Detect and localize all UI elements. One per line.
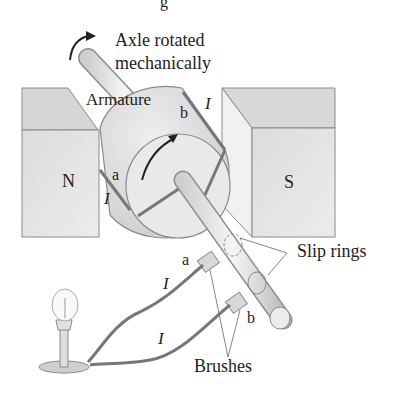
brush-terminal-a: a (182, 252, 189, 268)
coil-terminal-b: b (180, 105, 188, 121)
light-bulb (39, 289, 89, 373)
brush-b (225, 292, 247, 313)
current-label-wire-b: I (158, 330, 164, 347)
slip-rings-label: Slip rings (297, 242, 367, 260)
armature-label: Armature (86, 91, 151, 108)
brushes-label: Brushes (194, 357, 252, 375)
north-pole-label: N (62, 172, 75, 190)
title-fragment: g (160, 0, 168, 10)
wires (88, 265, 230, 365)
brush-terminal-b: b (247, 310, 255, 326)
current-label-wire-a: I (163, 275, 169, 292)
coil-terminal-a: a (112, 167, 119, 183)
north-magnet (22, 88, 99, 237)
current-label-left: I (104, 190, 110, 207)
brush-a (197, 251, 219, 272)
south-pole-label: S (284, 173, 294, 191)
axle-label-line1: Axle rotated (115, 31, 204, 49)
current-label-top: I (205, 95, 211, 112)
south-magnet (222, 88, 335, 237)
generator-diagram: g Axle rotated mechanically Armature b I… (0, 0, 406, 400)
axle-label-line2: mechanically (115, 54, 211, 72)
